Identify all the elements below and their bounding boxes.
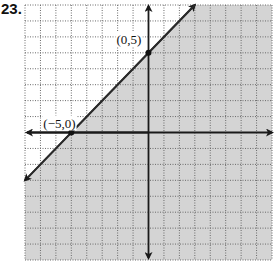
point-label: (−5,0)	[43, 116, 75, 131]
coordinate-graph: (−5,0)(0,5)	[0, 0, 276, 266]
point-marker	[146, 50, 152, 56]
point-label: (0,5)	[117, 32, 142, 47]
